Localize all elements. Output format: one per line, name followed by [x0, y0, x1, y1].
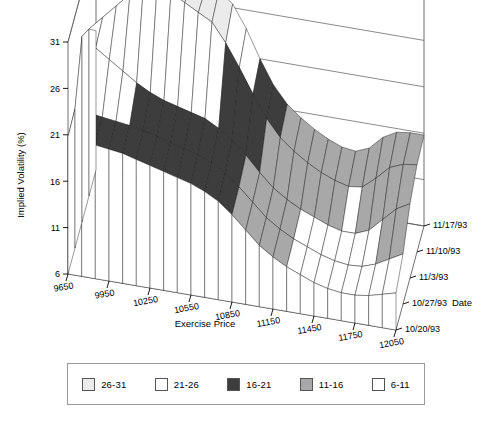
legend-item: 21-26: [155, 378, 199, 391]
date-axis-tick-label: 10/20/93: [405, 324, 440, 334]
exercise-price-tick-label: 11750: [338, 329, 364, 343]
value-axis-tick-label: 21: [50, 130, 60, 140]
legend-label: 11-16: [319, 379, 344, 390]
value-axis-tick-label: 6: [55, 269, 60, 279]
exercise-price-tick-label: 11450: [297, 322, 323, 336]
date-axis-title: Date: [452, 297, 472, 308]
value-axis-tick-label: 31: [50, 37, 60, 47]
legend-item: 6-11: [372, 378, 410, 391]
legend-swatch-21-26: [155, 378, 168, 391]
value-axis-tick-label: 16: [50, 177, 60, 187]
legend-swatch-11-16: [300, 378, 313, 391]
legend-swatch-6-11: [372, 378, 385, 391]
exercise-price-axis-title: Exercise Price: [175, 318, 236, 329]
value-axis-title: Implied Volatility (%): [15, 132, 26, 218]
exercise-price-tick-label: 10250: [132, 294, 158, 308]
value-axis: 61116212631Implied Volatility (%): [15, 37, 68, 279]
legend-swatch-26-31: [82, 378, 95, 391]
value-axis-tick-label: 26: [50, 84, 60, 94]
surface-chart: 61116212631Implied Volatility (%)9650995…: [0, 0, 493, 427]
exercise-price-tick-label: 11150: [256, 315, 281, 329]
chart-legend: 26-31 21-26 16-21 11-16 6-11: [67, 363, 425, 405]
legend-swatch-16-21: [227, 378, 240, 391]
exercise-price-tick-label: 9650: [53, 280, 74, 293]
exercise-price-tick-label: 9950: [94, 287, 115, 300]
date-axis-tick-label: 11/3/93: [419, 272, 448, 282]
legend-label: 26-31: [101, 379, 126, 390]
legend-label: 16-21: [246, 379, 271, 390]
exercise-price-tick-label: 12050: [378, 336, 404, 350]
date-axis-tick-label: 11/17/93: [433, 220, 467, 230]
value-axis-tick-label: 11: [51, 223, 60, 233]
legend-item: 16-21: [227, 378, 271, 391]
exercise-price-tick-label: 10550: [173, 301, 199, 315]
date-axis: 10/20/9310/27/9311/3/9311/10/9311/17/93D…: [396, 220, 472, 334]
legend-item: 11-16: [300, 378, 344, 391]
date-axis-tick-label: 11/10/93: [426, 246, 460, 256]
legend-label: 6-11: [391, 379, 410, 390]
legend-label: 21-26: [174, 379, 199, 390]
legend-item: 26-31: [82, 378, 126, 391]
date-axis-tick-label: 10/27/93: [412, 298, 447, 308]
